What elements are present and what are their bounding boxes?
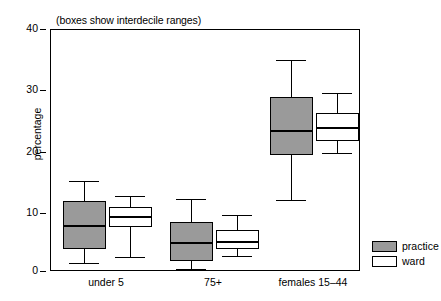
- y-axis-label: percentage: [31, 89, 43, 179]
- legend-item-practice: practice: [372, 239, 439, 254]
- whisker-cap-lower: [222, 256, 252, 257]
- whisker-upper: [84, 181, 85, 202]
- whisker-lower: [191, 261, 192, 269]
- legend-label-ward: ward: [402, 256, 425, 267]
- practice-swatch-icon: [372, 241, 397, 252]
- y-tick-mark-30: [40, 90, 46, 91]
- whisker-lower: [237, 249, 238, 256]
- y-tick-label-40: 40: [26, 22, 38, 34]
- median-line: [270, 130, 313, 132]
- median-line: [109, 216, 152, 218]
- x-tick-label-females-15-44: females 15–44: [279, 276, 348, 288]
- y-tick-label-10: 10: [26, 206, 38, 218]
- chart-legend: practice ward: [372, 239, 439, 269]
- whisker-upper: [191, 199, 192, 222]
- whisker-cap-upper: [322, 93, 352, 94]
- y-tick-mark-10: [40, 213, 46, 214]
- ward-swatch-icon: [372, 256, 397, 267]
- y-tick-label-0: 0: [32, 264, 38, 276]
- whisker-cap-lower: [276, 200, 306, 201]
- whisker-cap-lower: [322, 153, 352, 154]
- median-line: [216, 241, 259, 243]
- whisker-cap-upper: [222, 215, 252, 216]
- whisker-cap-upper: [69, 181, 99, 182]
- whisker-cap-lower: [115, 257, 145, 258]
- y-tick-label-20: 20: [26, 145, 38, 157]
- legend-item-ward: ward: [372, 254, 439, 269]
- median-line: [316, 127, 359, 129]
- whisker-lower: [337, 141, 338, 152]
- whisker-cap-lower: [176, 269, 206, 270]
- whisker-upper: [337, 93, 338, 113]
- x-tick-label-under-5: under 5: [88, 276, 124, 288]
- whisker-upper: [237, 215, 238, 231]
- legend-label-practice: practice: [402, 241, 439, 252]
- whisker-cap-upper: [176, 199, 206, 200]
- y-tick-mark-0: [40, 271, 46, 272]
- whisker-lower: [84, 249, 85, 263]
- y-tick-mark-20: [40, 152, 46, 153]
- boxplot-chart: (boxes show interdecile ranges) percenta…: [0, 0, 441, 301]
- whisker-cap-upper: [276, 60, 306, 61]
- whisker-lower: [291, 155, 292, 200]
- whisker-cap-lower: [69, 263, 99, 264]
- whisker-upper: [130, 196, 131, 207]
- whisker-cap-upper: [115, 196, 145, 197]
- whisker-lower: [130, 227, 131, 257]
- x-tick-label-75-plus: 75+: [204, 276, 222, 288]
- whisker-upper: [291, 60, 292, 96]
- median-line: [170, 242, 213, 244]
- box-practice: [270, 97, 313, 155]
- plot-area: [50, 29, 360, 271]
- y-tick-label-30: 30: [26, 83, 38, 95]
- median-line: [63, 225, 106, 227]
- y-tick-mark-40: [40, 29, 46, 30]
- chart-caption: (boxes show interdecile ranges): [56, 14, 201, 26]
